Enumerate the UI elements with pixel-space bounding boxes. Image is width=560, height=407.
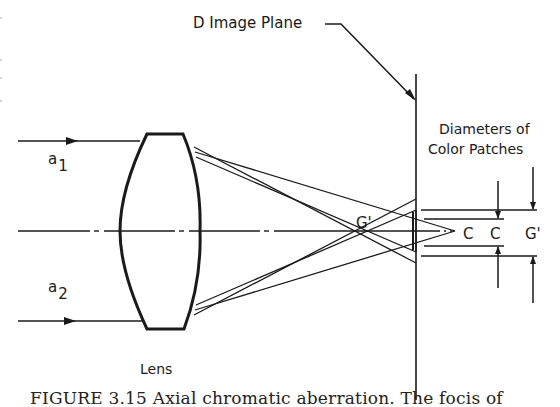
ray-label-a1-base: a: [48, 150, 57, 168]
image-plane-label: D Image Plane: [193, 16, 302, 31]
c-patch-label: C: [490, 227, 500, 242]
g-prime-patch-label: G': [525, 227, 541, 242]
figure-caption: FIGURE 3.15 Axial chromatic aberration. …: [30, 390, 503, 407]
ray-label-a2: a2: [48, 280, 67, 295]
ray-label-a2-subscript: 2: [58, 285, 68, 303]
c-focus-label: C: [463, 227, 473, 242]
incoming-ray-a1: [18, 137, 140, 145]
image-plane-leader: [325, 24, 416, 101]
ray-label-a1-subscript: 1: [58, 157, 68, 175]
g-prime-focus-label: G': [356, 216, 372, 231]
lens-label: Lens: [140, 362, 172, 376]
incoming-ray-a2: [18, 317, 143, 325]
ray-label-a2-base: a: [48, 278, 57, 296]
patch-dimension-lines: [421, 210, 537, 256]
diameters-label-line2: Color Patches: [428, 142, 523, 156]
diameters-label-line1: Diameters of: [439, 122, 530, 136]
optics-diagram: [0, 0, 560, 407]
ray-label-a1: a1: [48, 152, 67, 167]
margin-marks: [0, 17, 2, 102]
